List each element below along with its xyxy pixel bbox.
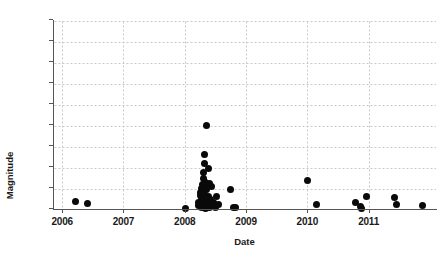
- data-point: [304, 177, 311, 184]
- y-axis-tick: [49, 145, 53, 146]
- x-axis-tick-label: 2007: [103, 216, 143, 227]
- data-point: [205, 165, 212, 172]
- data-point: [84, 200, 91, 207]
- data-point: [213, 193, 220, 200]
- y-axis-tick: [49, 124, 53, 125]
- x-axis-title: Date: [53, 236, 436, 247]
- data-point: [215, 201, 222, 208]
- data-point: [208, 183, 215, 190]
- gridline-horizontal: [53, 147, 436, 148]
- x-axis-tick: [185, 209, 186, 213]
- y-axis-tick: [49, 166, 53, 167]
- data-point: [419, 202, 426, 209]
- x-axis-tick-label: 2006: [42, 216, 82, 227]
- gridline-horizontal: [53, 189, 436, 190]
- gridline-horizontal: [53, 105, 436, 106]
- y-axis-title-text: Magnitude: [4, 144, 15, 206]
- plot-area: [53, 21, 436, 210]
- gridline-vertical: [62, 21, 63, 210]
- gridline-horizontal: [53, 21, 436, 22]
- x-axis-tick-label: 2008: [165, 216, 205, 227]
- scatter-chart-figure: 3.03.54.04.55.05.56.06.57.07.5 200620072…: [0, 0, 447, 259]
- x-axis-tick-label: 2011: [349, 216, 389, 227]
- y-axis-tick: [49, 187, 53, 188]
- gridline-horizontal: [53, 63, 436, 64]
- y-axis-tick: [49, 19, 53, 20]
- data-point: [72, 198, 79, 205]
- gridline-vertical: [369, 21, 370, 210]
- x-axis-tick: [62, 209, 63, 213]
- x-axis-tick: [369, 209, 370, 213]
- x-axis-tick-label: 2010: [287, 216, 327, 227]
- x-axis-tick-label: 2009: [226, 216, 266, 227]
- gridline-horizontal: [53, 168, 436, 169]
- data-point: [201, 151, 208, 158]
- y-axis-spine: 3.03.54.04.55.05.56.06.57.07.5: [53, 20, 54, 210]
- x-axis-tick: [123, 209, 124, 213]
- y-axis-tick: [49, 103, 53, 104]
- data-point: [203, 122, 210, 129]
- x-axis-tick: [246, 209, 247, 213]
- gridline-vertical: [123, 21, 124, 210]
- gridline-vertical: [246, 21, 247, 210]
- y-axis-tick: [49, 61, 53, 62]
- data-point: [227, 186, 234, 193]
- data-point: [393, 201, 400, 208]
- gridline-horizontal: [53, 84, 436, 85]
- gridline-horizontal: [53, 126, 436, 127]
- gridline-horizontal: [53, 42, 436, 43]
- y-axis-tick: [49, 40, 53, 41]
- x-axis-tick: [307, 209, 308, 213]
- data-point: [313, 201, 320, 208]
- gridline-vertical: [185, 21, 186, 210]
- x-axis-spine: 200620072008200920102011: [53, 209, 437, 210]
- y-axis-tick: [49, 82, 53, 83]
